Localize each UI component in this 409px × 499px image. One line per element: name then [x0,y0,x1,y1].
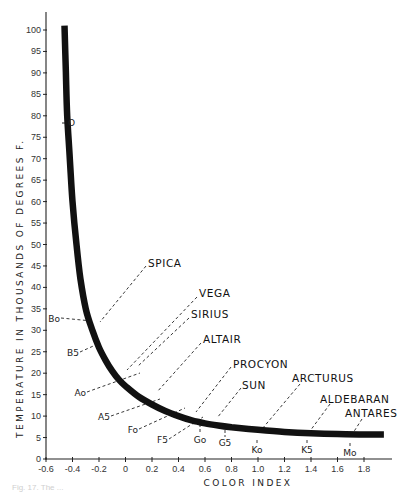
star-label: ANTARES [345,407,398,419]
spectral-class-label: B5 [67,348,79,358]
y-tick-label: 25 [31,347,41,357]
spectral-class-label: O [68,118,75,128]
y-tick-label: 50 [31,240,41,250]
spectral-class-label: K5 [301,445,313,455]
axes [45,12,392,459]
star-label: ALTAIR [203,333,241,345]
leader-line [100,266,146,322]
y-tick-label: 90 [31,68,41,78]
x-tick-label: 0.2 [146,464,159,474]
y-tick-label: 40 [31,282,41,292]
y-ticks: 0510152025303540455055606570758085909510… [26,25,47,464]
x-tick-label: 1.6 [331,464,344,474]
temperature-color-index-chart: 0510152025303540455055606570758085909510… [0,0,409,499]
y-tick-label: 45 [31,261,41,271]
y-tick-label: 15 [31,390,41,400]
leader-line [262,384,300,429]
y-tick-label: 65 [31,175,41,185]
star-label: PROCYON [233,358,288,370]
x-axis-title: COLOR INDEX [204,478,293,488]
y-tick-label: 0 [36,454,41,464]
x-tick-label: 1.4 [305,464,318,474]
leader-line [137,318,189,367]
x-tick-label: 1.0 [252,464,265,474]
spectral-class-label: Bo [48,314,60,324]
spectral-class-label: Go [194,435,207,445]
x-tick-label: 0.6 [199,464,212,474]
leader-line [310,404,330,431]
spectral-class-label: Fo [128,425,139,435]
star-label: SPICA [148,257,182,269]
x-tick-label: -0.2 [91,464,107,474]
x-tick-label: 0.8 [225,464,238,474]
y-axis-title: TEMPERATURE IN THOUSANDS OF DEGREES F. [15,139,25,439]
y-tick-label: 35 [31,304,41,314]
star-label: ARCTURUS [292,372,354,384]
y-tick-label: 85 [31,89,41,99]
star-label: ALDEBARAN [320,393,389,405]
star-label: SUN [242,379,266,391]
y-tick-label: 95 [31,46,41,56]
y-tick-label: 55 [31,218,41,228]
leader-line [353,419,362,433]
star-labels: SPICAVEGASIRIUSALTAIRPROCYONSUNARCTURUSA… [148,257,398,419]
y-tick-label: 75 [31,132,41,142]
x-tick-label: -0.6 [38,464,54,474]
spectral-class-label: Ko [252,445,263,455]
y-tick-label: 70 [31,154,41,164]
star-label: SIRIUS [191,308,229,320]
leader-lines [61,123,362,447]
x-tick-label: 0 [123,464,128,474]
x-tick-label: 1.2 [278,464,291,474]
leader-line [217,388,241,418]
y-tick-label: 60 [31,197,41,207]
y-tick-label: 80 [31,111,41,121]
y-tick-label: 10 [31,411,41,421]
spectral-class-label: F5 [157,435,168,445]
x-tick-label: 0.4 [172,464,185,474]
leader-line [157,343,201,392]
spectral-class-label: Ao [74,388,86,398]
y-tick-label: 100 [26,25,41,35]
spectral-class-label: Mo [343,448,357,458]
x-tick-label: -0.4 [65,464,81,474]
star-label: VEGA [199,287,231,299]
figure-caption: Fig. 17. The ... [12,483,63,492]
leader-line [127,297,197,370]
y-tick-label: 20 [31,368,41,378]
y-tick-label: 30 [31,325,41,335]
x-tick-label: 1.8 [358,464,371,474]
y-tick-label: 5 [36,433,41,443]
spectral-class-label: A5 [98,412,110,422]
leader-line [196,367,231,412]
spectral-class-label: G5 [219,438,232,448]
